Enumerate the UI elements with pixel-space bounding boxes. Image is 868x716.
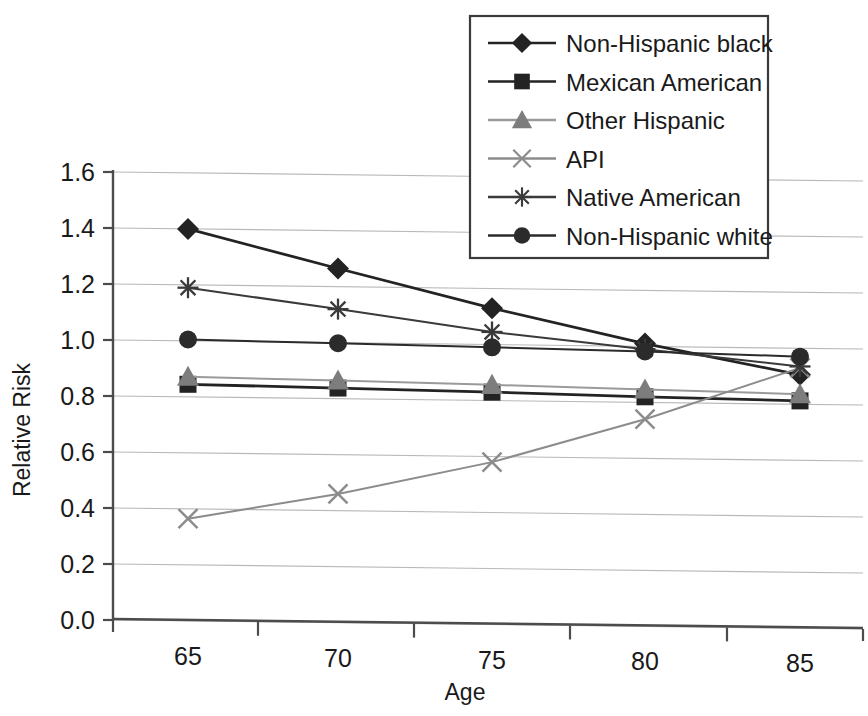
legend-label: Non-Hispanic white [566, 223, 773, 250]
x-tick-label: 85 [786, 649, 814, 677]
y-tick-label: 1.2 [60, 270, 95, 298]
y-tick-label: 0.4 [60, 494, 95, 522]
data-point-circle [483, 338, 501, 356]
legend-label: Other Hispanic [566, 107, 725, 134]
legend-label: Non-Hispanic black [566, 30, 774, 57]
chart-container: 0.00.20.40.60.81.01.21.41.6 6570758085 R… [0, 0, 868, 716]
data-point-circle [636, 342, 654, 360]
data-point-circle [514, 227, 531, 244]
data-point-asterisk [328, 299, 349, 320]
y-tick-label: 1.4 [60, 214, 95, 242]
data-point-circle [791, 348, 809, 366]
y-tick-label: 1.0 [60, 326, 95, 354]
x-tick-label: 70 [324, 644, 352, 672]
x-axis-title: Age [445, 679, 486, 705]
y-tick-label: 0.8 [60, 382, 95, 410]
data-point-asterisk [512, 187, 531, 206]
data-point-circle [179, 331, 197, 349]
y-tick-label: 0.2 [60, 550, 95, 578]
legend-label: Mexican American [566, 69, 762, 96]
y-tick-label: 1.6 [60, 158, 95, 186]
x-tick-label: 80 [631, 647, 659, 675]
x-tick-label: 65 [174, 642, 202, 670]
chart-legend: Non-Hispanic blackMexican AmericanOther … [470, 16, 774, 258]
relative-risk-line-chart: 0.00.20.40.60.81.01.21.41.6 6570758085 R… [0, 0, 868, 716]
data-point-asterisk [178, 277, 199, 298]
legend-label: API [566, 146, 605, 173]
x-tick-label: 75 [478, 646, 506, 674]
data-point-square [514, 74, 530, 90]
y-tick-label: 0.0 [60, 606, 95, 634]
y-axis-title: Relative Risk [9, 362, 35, 497]
y-axis-tick-labels: 0.00.20.40.60.81.01.21.41.6 [60, 158, 95, 634]
data-point-circle [329, 334, 347, 352]
legend-label: Native American [566, 184, 741, 211]
y-tick-label: 0.6 [60, 438, 95, 466]
